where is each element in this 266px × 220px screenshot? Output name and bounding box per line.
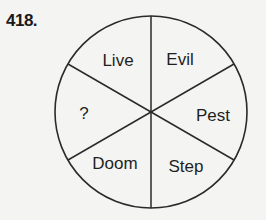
segment-label-top-left: Live bbox=[102, 51, 133, 70]
word-wheel: Live Evil Pest Step Doom ? bbox=[0, 0, 266, 220]
segment-label-left-unknown: ? bbox=[79, 104, 88, 123]
segment-label-bottom-right: Step bbox=[169, 157, 204, 176]
segment-label-right: Pest bbox=[196, 106, 230, 125]
segment-label-top-right: Evil bbox=[166, 50, 193, 69]
segment-label-bottom-left: Doom bbox=[92, 154, 137, 173]
